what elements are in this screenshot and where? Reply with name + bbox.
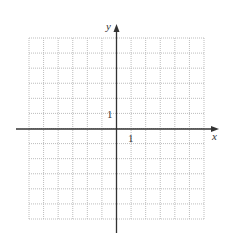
y-axis-arrow-icon (114, 24, 120, 32)
x-tick-label: 1 (128, 132, 134, 144)
coordinate-plane: x y 1 1 (0, 0, 232, 246)
y-axis-label: y (105, 20, 111, 32)
y-tick-label: 1 (107, 108, 113, 120)
x-axis-label: x (211, 130, 217, 142)
